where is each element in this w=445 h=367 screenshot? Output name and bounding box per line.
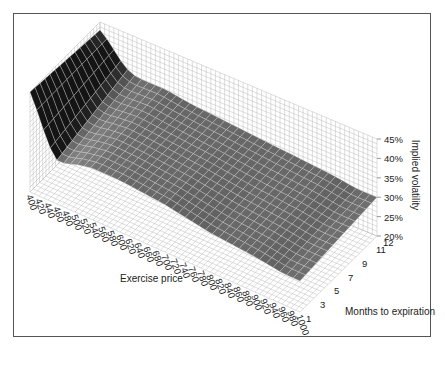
surface-chart: 4004204404604805005205405605806006206406…	[0, 0, 445, 367]
z-tick: 45%	[384, 134, 404, 145]
x-axis-label: Exercise price	[120, 273, 183, 284]
y-tick: 1	[306, 313, 311, 324]
z-tick: 20%	[384, 231, 404, 242]
z-axis-ticks: 20%25%30%35%40%45%	[377, 134, 404, 242]
y-tick: 9	[362, 258, 367, 269]
z-tick: 35%	[384, 173, 404, 184]
volatility-surface	[30, 30, 377, 281]
z-tick: 30%	[384, 192, 404, 203]
y-axis-label: Months to expiration	[345, 306, 435, 317]
y-tick: 7	[348, 272, 353, 283]
z-axis-label: Implied volatility	[410, 140, 421, 211]
z-tick: 25%	[384, 212, 404, 223]
y-tick: 5	[334, 285, 339, 296]
z-tick: 40%	[384, 153, 404, 164]
y-tick: 3	[320, 299, 325, 310]
